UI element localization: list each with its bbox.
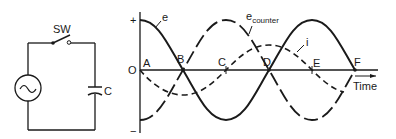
waveform-graph: Time + − O A B C D E F e ecounter <box>128 10 378 137</box>
point-d-label: D <box>263 56 271 68</box>
point-e-label: E <box>313 57 320 69</box>
y-minus-label: − <box>130 125 136 137</box>
curve-e-label: e <box>162 11 168 23</box>
x-axis-label: Time <box>353 80 377 92</box>
time-arrow-icon <box>355 74 376 78</box>
capacitor-label: C <box>104 85 112 97</box>
point-c-label: C <box>218 56 226 68</box>
point-a-label: A <box>143 57 151 69</box>
curve-e-counter-label: ecounter <box>246 10 279 25</box>
origin-label: O <box>128 64 137 76</box>
circuit-waveform-diagram: SW C Time + − O <box>0 0 396 139</box>
switch-icon[interactable] <box>51 35 71 45</box>
point-f-label: F <box>354 56 361 68</box>
point-b-label: B <box>177 53 184 65</box>
switch-label: SW <box>53 23 71 35</box>
capacitor-icon <box>88 87 102 95</box>
y-plus-label: + <box>130 14 136 26</box>
curve-i-label: i <box>306 36 308 48</box>
ac-source-icon <box>15 75 41 101</box>
